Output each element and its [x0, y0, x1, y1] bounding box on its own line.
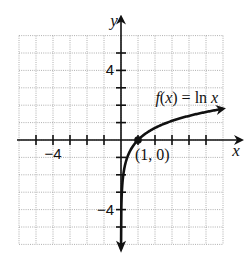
function-label-part: x: [210, 89, 218, 106]
y-tick-label: 4: [106, 61, 114, 78]
function-label: f(x) = ln x: [155, 89, 218, 107]
y-axis-label: y: [108, 11, 118, 30]
labels: −44−4xy(1, 0)f(x) = ln x: [44, 11, 240, 218]
x-axis-label: x: [231, 141, 240, 160]
x-tick-label: −4: [44, 145, 61, 162]
function-label-part: x: [164, 89, 172, 106]
y-tick-label: −4: [97, 201, 114, 218]
function-label-part: ) = ln: [172, 89, 211, 107]
curve-layer: [116, 109, 223, 253]
point-label: (1, 0): [135, 146, 170, 164]
axes: [17, 18, 241, 247]
ln-graph: −44−4xy(1, 0)f(x) = ln x: [0, 0, 252, 262]
point-marker: [134, 136, 142, 144]
